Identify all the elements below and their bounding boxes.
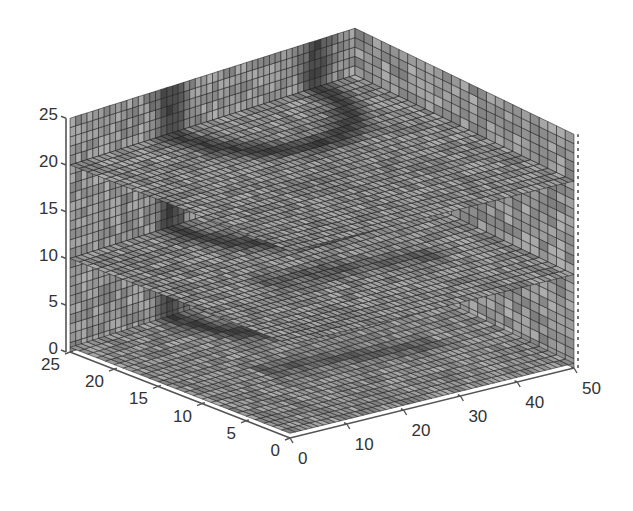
x-tick: [347, 424, 350, 429]
z-tick-label: 25: [39, 105, 58, 124]
x-tick-label: 10: [355, 435, 374, 454]
z-tick-label: 15: [39, 199, 58, 218]
y-tick-label: 0: [271, 441, 280, 460]
x-tick-label: 0: [298, 449, 307, 468]
y-tick: [109, 369, 114, 371]
y-tick: [285, 438, 290, 440]
slice-plot-3d: 0102030405005101520250510152025: [0, 0, 633, 511]
z-tick-label: 20: [39, 152, 58, 171]
z-tick-label: 0: [49, 339, 58, 358]
y-tick-label: 10: [173, 407, 192, 426]
z-tick: [61, 116, 66, 118]
y-tick-label: 5: [227, 424, 236, 443]
z-tick-label: 10: [39, 246, 58, 265]
x-tick-label: 20: [412, 421, 431, 440]
slices: [70, 28, 574, 433]
x-tick: [460, 396, 463, 401]
x-tick: [290, 438, 293, 443]
x-tick: [517, 382, 520, 387]
z-tick-label: 5: [49, 292, 58, 311]
y-tick-label: 20: [85, 372, 104, 391]
x-tick: [574, 368, 577, 373]
y-tick: [153, 386, 158, 388]
x-tick-label: 40: [525, 393, 544, 412]
chart-figure: 0102030405005101520250510152025: [0, 0, 633, 511]
x-tick: [404, 410, 407, 415]
x-tick-label: 30: [468, 407, 487, 426]
x-tick-label: 50: [582, 379, 601, 398]
y-tick: [197, 404, 202, 406]
y-tick: [241, 421, 246, 423]
y-tick-label: 15: [129, 389, 148, 408]
